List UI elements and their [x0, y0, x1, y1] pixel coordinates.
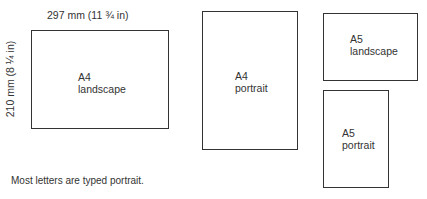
sheet-label: A5 landscape [350, 33, 398, 57]
sheet-orientation: portrait [235, 82, 268, 94]
sheet-label: A4 portrait [235, 70, 268, 94]
sheet-size: A5 [350, 33, 398, 45]
a4-portrait-sheet: A4 portrait [202, 11, 298, 150]
a5-portrait-sheet: A5 portrait [323, 90, 389, 188]
caption-note: Most letters are typed portrait. [11, 175, 144, 186]
sheet-size: A4 [235, 70, 268, 82]
sheet-label: A4 landscape [78, 71, 126, 95]
a5-landscape-sheet: A5 landscape [323, 13, 418, 81]
height-dimension-label: 210 mm (8 ¼ in) [4, 41, 16, 117]
sheet-orientation: landscape [78, 83, 126, 95]
sheet-label: A5 portrait [342, 127, 375, 151]
sheet-orientation: portrait [342, 139, 375, 151]
sheet-size: A5 [342, 127, 375, 139]
sheet-size: A4 [78, 71, 126, 83]
width-dimension-label: 297 mm (11 ¾ in) [47, 9, 129, 21]
sheet-orientation: landscape [350, 45, 398, 57]
a4-landscape-sheet: A4 landscape [31, 30, 169, 129]
